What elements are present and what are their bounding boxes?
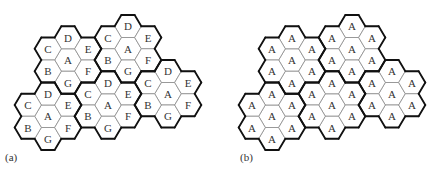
cell-label-D: A: [348, 20, 356, 32]
cell-label-F: A: [408, 99, 416, 111]
cell-label-C: A: [308, 88, 316, 100]
cell-label-D: A: [288, 32, 296, 44]
cell-label-F: A: [308, 65, 316, 77]
cell-label-A: A: [268, 110, 276, 122]
cell-label-B: B: [144, 99, 151, 111]
cell-label-A: A: [388, 88, 396, 100]
cell-label-F: A: [288, 122, 296, 134]
cell-label-E: E: [65, 99, 72, 111]
cell-label-A: A: [348, 43, 356, 55]
cell-label-B: B: [44, 65, 51, 77]
cell-label-E: E: [85, 43, 92, 55]
cell-label-D: A: [328, 77, 336, 89]
cell-label-C: A: [368, 77, 376, 89]
cell-label-A: A: [64, 54, 72, 66]
cell-label-E: E: [125, 88, 132, 100]
cell-label-B: B: [104, 54, 111, 66]
cell-label-E: E: [185, 77, 192, 89]
cell-label-G: G: [104, 122, 112, 134]
cell-label-G: A: [348, 65, 356, 77]
cell-label-E: A: [408, 77, 416, 89]
cell-label-G: A: [268, 133, 276, 145]
cell-label-B: A: [308, 110, 316, 122]
cell-label-E: E: [145, 32, 152, 44]
panel-b: AAAAAAAAAAAAAAAAAAAAAAAAAAAAAAAAAAA: [239, 15, 426, 150]
cell-label-F: F: [65, 122, 71, 134]
cell-label-C: A: [328, 32, 336, 44]
cell-label-C: C: [44, 43, 51, 55]
cell-label-C: C: [144, 77, 151, 89]
cell-label-E: A: [368, 32, 376, 44]
cell-label-G: G: [124, 65, 132, 77]
cell-label-G: G: [64, 77, 72, 89]
panel-a: ADGCBEFADGCBEFADGCBEFADGCBEFADGCBEF: [15, 15, 202, 150]
cell-label-F: F: [145, 54, 151, 66]
cell-label-C: C: [24, 99, 31, 111]
cell-label-C: C: [84, 88, 91, 100]
cell-label-G: A: [328, 122, 336, 134]
panel-label-a: (a): [5, 151, 17, 163]
cell-label-D: D: [64, 32, 72, 44]
cell-label-D: D: [104, 77, 112, 89]
cell-label-A: A: [288, 54, 296, 66]
cell-label-C: A: [248, 99, 256, 111]
panel-label-b: (b): [240, 151, 253, 163]
cell-label-A: A: [328, 99, 336, 111]
cell-label-D: A: [388, 65, 396, 77]
cell-label-G: A: [388, 110, 396, 122]
cell-label-E: A: [288, 99, 296, 111]
cell-label-G: G: [164, 110, 172, 122]
cell-label-D: A: [268, 88, 276, 100]
cell-label-B: A: [248, 122, 256, 134]
cell-label-D: D: [164, 65, 172, 77]
cell-label-C: A: [268, 43, 276, 55]
cell-label-F: A: [368, 54, 376, 66]
cell-label-D: D: [44, 88, 52, 100]
cell-label-C: C: [104, 32, 111, 44]
cell-label-E: A: [348, 88, 356, 100]
cell-label-B: B: [84, 110, 91, 122]
cell-label-B: B: [24, 122, 31, 134]
cell-label-B: A: [328, 54, 336, 66]
cellular-reuse-diagram: ADGCBEFADGCBEFADGCBEFADGCBEFADGCBEFAAAAA…: [0, 0, 443, 172]
cell-label-A: A: [104, 99, 112, 111]
cell-label-G: G: [44, 133, 52, 145]
cell-label-F: F: [185, 99, 191, 111]
hex-grid-canvas: ADGCBEFADGCBEFADGCBEFADGCBEFADGCBEFAAAAA…: [0, 0, 443, 172]
cell-label-F: F: [125, 110, 131, 122]
cell-label-A: A: [164, 88, 172, 100]
cell-label-F: A: [348, 110, 356, 122]
cell-label-F: F: [85, 65, 91, 77]
cell-label-E: A: [308, 43, 316, 55]
cell-label-G: A: [288, 77, 296, 89]
cell-label-B: A: [268, 65, 276, 77]
cell-label-D: D: [124, 20, 132, 32]
cell-label-B: A: [368, 99, 376, 111]
cell-label-A: A: [124, 43, 132, 55]
cell-label-A: A: [44, 110, 52, 122]
